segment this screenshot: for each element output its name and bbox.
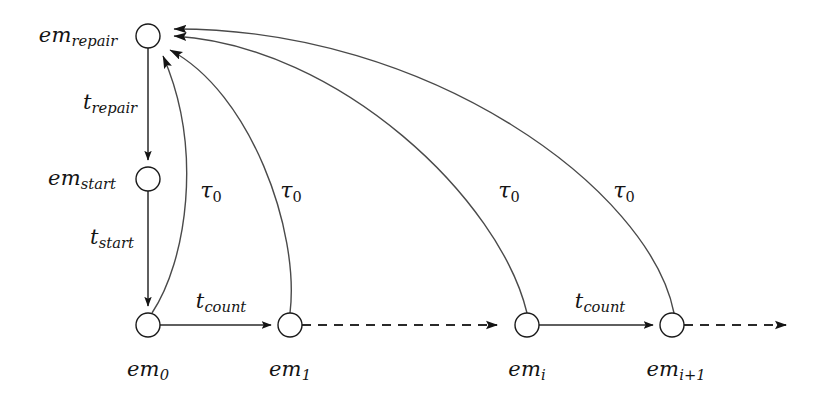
transition-label-t-start: tstart	[90, 227, 134, 251]
node-label-em-0: em0	[127, 359, 169, 383]
transition-label-t-repair: trepair	[83, 92, 137, 116]
edge-emi1-to-repair	[174, 29, 674, 313]
node-label-em-1: em1	[269, 359, 311, 383]
transition-label-tau-0-a: τ0	[200, 180, 222, 205]
transition-label-t-count-0: tcount	[196, 291, 247, 315]
transition-label-tau-0-b: τ0	[280, 180, 302, 205]
edge-emi-to-repair	[174, 36, 527, 313]
edge-em1-to-repair	[170, 50, 291, 313]
transition-label-tau-0-c: τ0	[498, 180, 520, 205]
transition-label-tau-0-d: τ0	[613, 180, 635, 205]
petri-net-diagram: emrepair emstart em0 em1 emi emi+1 trepa…	[0, 0, 819, 403]
node-label-em-start: emstart	[48, 168, 116, 192]
diagram-canvas	[0, 0, 819, 403]
node-label-em-i-plus-1: emi+1	[646, 359, 705, 383]
transition-label-t-count-i: tcount	[575, 291, 626, 315]
node-em-0[interactable]	[136, 313, 160, 337]
node-em-repair[interactable]	[136, 24, 160, 48]
node-label-em-i: emi	[508, 359, 545, 383]
node-em-start[interactable]	[136, 167, 160, 191]
node-em-i[interactable]	[515, 313, 539, 337]
node-em-1[interactable]	[278, 313, 302, 337]
node-label-em-repair: emrepair	[39, 25, 117, 49]
node-em-i-plus-1[interactable]	[660, 313, 684, 337]
